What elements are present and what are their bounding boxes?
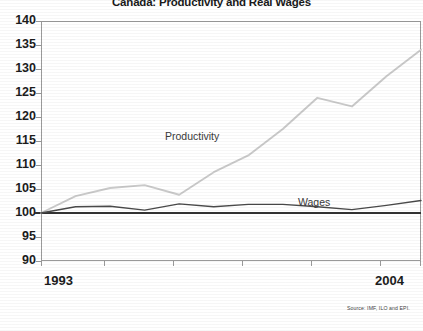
y-tick-label-135: 135 bbox=[2, 38, 36, 51]
y-tick-label-100: 100 bbox=[2, 206, 36, 219]
x-tick-label-start: 1993 bbox=[44, 273, 73, 288]
y-tick-label-105: 105 bbox=[2, 182, 36, 195]
y-tick-label-110: 110 bbox=[2, 158, 36, 171]
productivity-line bbox=[41, 50, 421, 213]
y-axis-labels: 140 135 130 125 120 115 110 105 100 95 9… bbox=[0, 0, 36, 331]
chart-title: Canada: Productivity and Real Wages bbox=[0, 0, 423, 8]
chart-container: Canada: Productivity and Real Wages 140 … bbox=[0, 0, 423, 331]
productivity-series-label: Productivity bbox=[165, 130, 219, 142]
source-note: Source: IMF, ILO and EPI. bbox=[347, 305, 423, 312]
y-tick-label-115: 115 bbox=[2, 134, 36, 147]
plot-area bbox=[41, 21, 421, 261]
y-tick-label-90: 90 bbox=[2, 254, 36, 267]
y-tick-label-120: 120 bbox=[2, 110, 36, 123]
y-tick-label-130: 130 bbox=[2, 62, 36, 75]
y-tick-label-125: 125 bbox=[2, 86, 36, 99]
wages-line bbox=[41, 201, 421, 213]
y-tick-label-95: 95 bbox=[2, 230, 36, 243]
wages-series-label: Wages bbox=[298, 196, 330, 208]
x-tick-label-end: 2004 bbox=[375, 273, 404, 288]
y-tick-label-140: 140 bbox=[2, 14, 36, 27]
series-lines bbox=[41, 21, 421, 261]
